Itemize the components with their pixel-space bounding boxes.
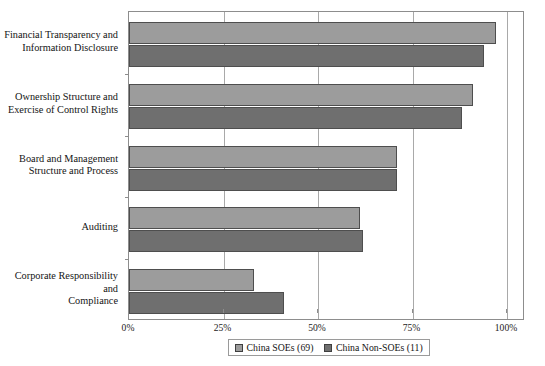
x-axis-tick-label: 0% bbox=[122, 322, 135, 333]
x-axis-tick-labels: 0%25%50%75%100% bbox=[0, 322, 545, 338]
bar bbox=[129, 269, 254, 291]
category-label: Financial Transparency andInformation Di… bbox=[0, 11, 121, 73]
x-axis-tick-label: 75% bbox=[403, 322, 421, 333]
x-axis-tick bbox=[223, 309, 224, 313]
category-label: Board and ManagementStructure and Proces… bbox=[0, 135, 121, 197]
legend-item[interactable]: China SOEs (69) bbox=[235, 342, 313, 353]
page-title bbox=[0, 0, 545, 5]
legend-item[interactable]: China Non-SOEs (11) bbox=[324, 342, 422, 353]
bar bbox=[129, 22, 496, 44]
x-axis-tick-label: 100% bbox=[495, 322, 517, 333]
category-label: Ownership Structure andExercise of Contr… bbox=[0, 73, 121, 135]
y-axis-tick bbox=[125, 197, 129, 198]
x-axis-tick bbox=[412, 309, 413, 313]
plot-area bbox=[128, 11, 506, 320]
bar bbox=[129, 169, 397, 191]
bar bbox=[129, 230, 363, 252]
x-axis-tick bbox=[506, 309, 507, 313]
x-axis-tick bbox=[128, 309, 129, 313]
bar bbox=[129, 107, 462, 129]
bar bbox=[129, 146, 397, 168]
legend-item-label: China SOEs (69) bbox=[247, 342, 314, 353]
bar bbox=[129, 84, 473, 106]
gridline-100 bbox=[507, 12, 508, 319]
bar-group bbox=[129, 197, 506, 259]
category-label-text: Auditing bbox=[81, 221, 121, 234]
bar-group bbox=[129, 12, 506, 74]
x-axis-tick-label: 25% bbox=[214, 322, 232, 333]
category-label: Auditing bbox=[0, 196, 121, 258]
category-axis-labels: Financial Transparency andInformation Di… bbox=[0, 11, 128, 320]
bar bbox=[129, 45, 484, 67]
chart-figure: Financial Transparency andInformation Di… bbox=[0, 0, 545, 366]
y-axis-tick bbox=[125, 74, 129, 75]
bar-group bbox=[129, 74, 506, 136]
legend-swatch-icon bbox=[235, 344, 243, 352]
x-axis-tick bbox=[317, 309, 318, 313]
bar bbox=[129, 207, 360, 229]
x-axis-tick-label: 50% bbox=[308, 322, 326, 333]
legend-swatch-icon bbox=[324, 344, 332, 352]
y-axis-tick bbox=[125, 259, 129, 260]
y-axis-tick bbox=[125, 136, 129, 137]
category-label: Corporate Responsibility andCompliance bbox=[0, 258, 121, 320]
bar bbox=[129, 292, 284, 314]
category-label-text: Financial Transparency andInformation Di… bbox=[4, 29, 121, 54]
bar-group bbox=[129, 136, 506, 198]
legend-item-label: China Non-SOEs (11) bbox=[336, 342, 423, 353]
category-label-text: Board and ManagementStructure and Proces… bbox=[19, 153, 121, 178]
category-label-text: Corporate Responsibility andCompliance bbox=[0, 270, 121, 308]
chart-legend: China SOEs (69)China Non-SOEs (11) bbox=[228, 339, 430, 356]
category-label-text: Ownership Structure andExercise of Contr… bbox=[8, 91, 121, 116]
